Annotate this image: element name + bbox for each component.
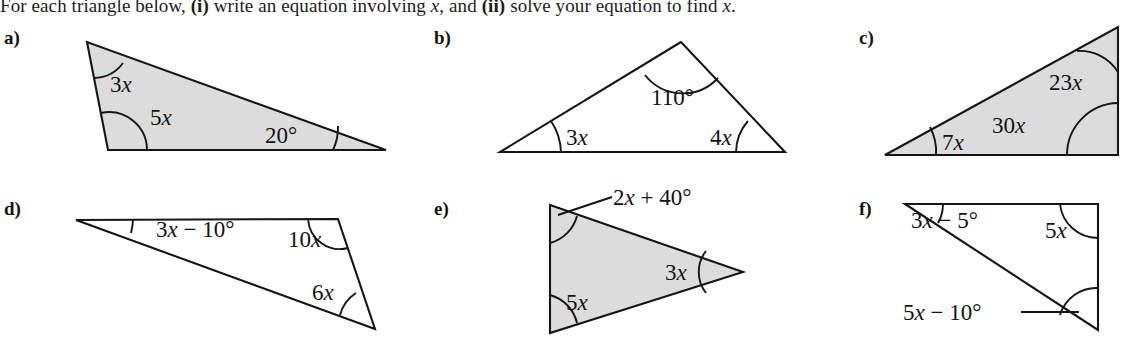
triangle-a-shape [87,42,386,150]
angle-label-e-right: 3x [665,260,688,285]
worksheet-page: For each triangle below, (i) write an eq… [0,0,1122,345]
figure-d: 3x − 10° 10x 6x [0,175,420,345]
figure-b: 110° 3x 4x [430,0,850,175]
angle-label-c-left: 7x [942,130,965,155]
triangle-b-shape [500,42,785,152]
angle-label-a-top: 3x [110,72,133,97]
angle-label-e-top-left: 2x + 40° [613,185,691,210]
angle-label-f-top-right: 5x [1045,218,1068,243]
angle-label-b-bottom-left: 3x [566,125,589,150]
angle-label-b-bottom-right: 4x [710,125,733,150]
angle-label-c-top-right: 23x [1049,70,1083,95]
angle-label-f-top-left: 3x − 5° [911,208,978,233]
figure-e: 2x + 40° 3x 5x [430,175,850,345]
angle-label-b-apex: 110° [651,85,694,110]
figure-f: 3x − 5° 5x 5x − 10° [855,175,1122,345]
figure-a: 3x 5x 20° [0,0,420,175]
angle-label-d-left: 3x − 10° [156,217,234,242]
leader-line-e-top-left [558,197,612,215]
angle-label-d-bottom-right: 6x [312,280,335,305]
angle-label-a-bottom-left: 5x [150,105,173,130]
angle-label-e-bottom-left: 5x [566,290,589,315]
figure-c: 23x 30x 7x [855,0,1122,175]
angle-label-a-bottom-right: 20° [265,123,297,148]
angle-label-c-bottom-right: 30x [992,113,1026,138]
angle-label-f-bottom-right: 5x − 10° [903,300,981,325]
angle-label-d-top-right: 10x [288,227,322,252]
